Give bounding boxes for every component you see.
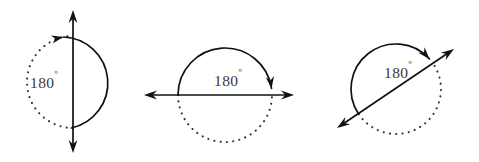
rotation-arc-vertical xyxy=(63,37,107,128)
angle-label-vertical: 180º xyxy=(30,69,58,92)
panel-horizontal: 180º xyxy=(144,48,294,142)
rotation-arrowhead-icon-diagonal xyxy=(418,47,429,59)
rotation-arrowhead-icon-horizontal xyxy=(266,76,274,88)
arrowhead-upper-right-icon xyxy=(441,49,454,60)
rotation-figure: 180º 180º 180º xyxy=(0,0,479,162)
angle-label-diagonal: 180º xyxy=(384,59,412,82)
dotted-semicircle-horizontal xyxy=(178,95,272,142)
panel-vertical: 180º xyxy=(27,10,108,153)
arrowhead-lower-left-icon xyxy=(337,117,350,128)
angle-label-horizontal: 180º xyxy=(214,67,242,90)
figure-canvas: 180º 180º 180º xyxy=(0,0,479,162)
panel-diagonal: 180º xyxy=(337,44,454,134)
